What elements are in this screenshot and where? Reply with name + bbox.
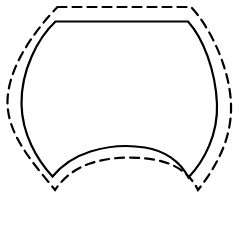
pattern-outline-drawing <box>0 0 240 227</box>
cutting-line-solid-outline <box>21 22 217 178</box>
figure-canvas <box>0 0 240 227</box>
